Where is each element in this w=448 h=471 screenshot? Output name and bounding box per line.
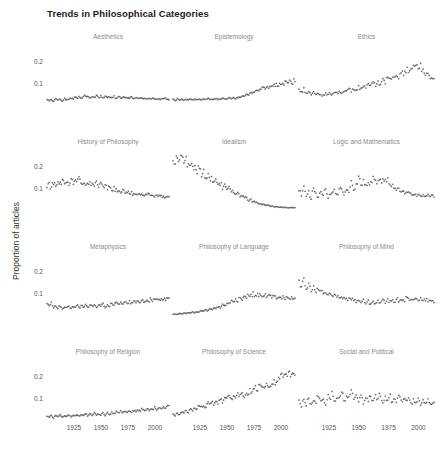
data-point bbox=[146, 194, 148, 196]
data-point bbox=[130, 193, 132, 195]
data-point bbox=[131, 191, 133, 193]
data-point bbox=[387, 177, 389, 179]
facet-panel: Philosophy of Mind bbox=[299, 243, 434, 330]
data-point bbox=[428, 402, 430, 404]
data-point bbox=[60, 306, 62, 308]
data-point bbox=[111, 411, 113, 413]
data-point bbox=[225, 305, 227, 307]
data-point bbox=[281, 372, 283, 374]
data-point bbox=[51, 186, 53, 188]
facet-panel-title: Social and Political bbox=[299, 348, 434, 355]
data-point bbox=[106, 306, 108, 308]
data-point bbox=[205, 406, 207, 408]
data-point bbox=[397, 397, 399, 399]
data-point bbox=[278, 85, 280, 87]
data-point bbox=[315, 402, 317, 404]
data-point bbox=[324, 94, 326, 96]
data-point bbox=[77, 178, 79, 180]
data-point bbox=[377, 398, 379, 400]
data-point bbox=[244, 397, 246, 399]
data-point bbox=[81, 305, 83, 307]
data-point bbox=[221, 305, 223, 307]
data-point bbox=[282, 295, 284, 297]
data-point bbox=[210, 180, 212, 182]
data-point bbox=[120, 301, 122, 303]
data-point bbox=[241, 299, 243, 301]
data-point bbox=[196, 408, 198, 410]
facet-panel: Logic and Mathematics bbox=[299, 138, 434, 225]
data-point bbox=[361, 300, 363, 302]
data-point bbox=[377, 80, 379, 82]
data-point bbox=[270, 295, 272, 297]
data-point bbox=[223, 186, 225, 188]
data-point bbox=[232, 399, 234, 401]
data-point bbox=[310, 403, 312, 405]
data-point bbox=[90, 184, 92, 186]
data-point bbox=[427, 193, 429, 195]
data-point bbox=[421, 71, 423, 73]
data-point bbox=[222, 402, 224, 404]
data-point bbox=[119, 190, 121, 192]
data-point bbox=[273, 83, 275, 85]
data-point bbox=[381, 182, 383, 184]
data-point bbox=[330, 398, 332, 400]
data-point bbox=[352, 184, 354, 186]
data-point bbox=[52, 305, 54, 307]
facet-panel-title: Ethics bbox=[299, 33, 434, 40]
data-point bbox=[247, 293, 249, 295]
data-point bbox=[365, 87, 367, 89]
data-point bbox=[381, 300, 383, 302]
facet-panel-title: Idealism bbox=[173, 138, 295, 145]
data-point bbox=[134, 300, 136, 302]
data-point bbox=[177, 157, 179, 159]
data-point bbox=[224, 183, 226, 185]
data-point bbox=[318, 396, 320, 398]
data-point bbox=[73, 183, 75, 185]
data-point bbox=[427, 398, 429, 400]
data-point bbox=[159, 299, 161, 301]
facet-panel: Social and Political1925195019752000 bbox=[299, 348, 434, 435]
data-point bbox=[253, 200, 255, 202]
data-point bbox=[344, 400, 346, 402]
data-point bbox=[97, 306, 99, 308]
data-point bbox=[52, 182, 54, 184]
data-point bbox=[410, 193, 412, 195]
data-point bbox=[235, 298, 237, 300]
data-point bbox=[237, 301, 239, 303]
data-point bbox=[165, 300, 167, 302]
data-point bbox=[370, 396, 372, 398]
data-point bbox=[430, 196, 432, 198]
data-point bbox=[425, 74, 427, 76]
x-tick-label: 1975 bbox=[116, 424, 140, 431]
data-point bbox=[129, 300, 131, 302]
page-title: Trends in Philosophical Categories bbox=[47, 8, 209, 19]
data-point bbox=[110, 413, 112, 415]
data-point bbox=[168, 297, 170, 299]
data-point bbox=[241, 392, 243, 394]
data-point bbox=[97, 95, 99, 97]
data-point bbox=[324, 189, 326, 191]
data-point bbox=[78, 176, 80, 178]
data-point bbox=[48, 182, 50, 184]
data-point bbox=[81, 97, 83, 99]
data-point bbox=[382, 78, 384, 80]
data-point bbox=[352, 298, 354, 300]
data-point bbox=[291, 296, 293, 298]
data-point bbox=[274, 85, 276, 87]
data-point bbox=[342, 298, 344, 300]
data-point bbox=[258, 296, 260, 298]
data-point bbox=[229, 188, 231, 190]
data-point bbox=[428, 75, 430, 77]
data-point bbox=[113, 304, 115, 306]
data-point bbox=[286, 375, 288, 377]
data-point bbox=[294, 81, 296, 83]
data-point bbox=[226, 189, 228, 191]
data-point bbox=[425, 300, 427, 302]
data-point bbox=[335, 400, 337, 402]
data-point bbox=[346, 90, 348, 92]
data-point bbox=[256, 295, 258, 297]
data-point bbox=[274, 295, 276, 297]
data-point bbox=[119, 412, 121, 414]
data-point bbox=[104, 415, 106, 417]
data-point bbox=[160, 195, 162, 197]
